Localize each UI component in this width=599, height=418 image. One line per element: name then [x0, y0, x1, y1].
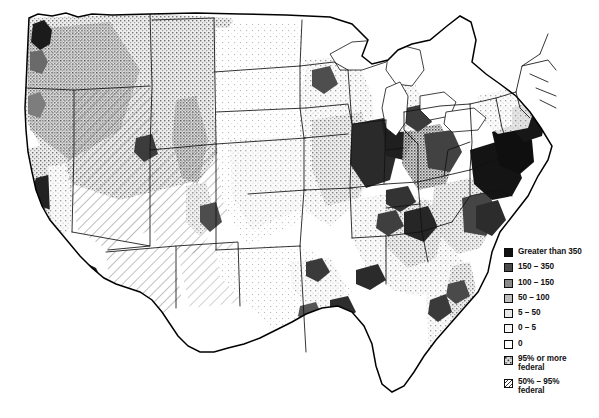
legend-swatch-95-or-more-federal — [504, 356, 513, 365]
legend-item-95-or-more-federal: 95% or more federal — [504, 355, 599, 372]
map-page: Greater than 350 150 – 350 100 – 150 50 … — [0, 0, 599, 418]
legend-item-150-350: 150 – 350 — [504, 262, 599, 272]
legend-item-0: 0 — [504, 339, 599, 349]
legend-label-50-95-federal: 50% – 95% federal — [518, 378, 559, 395]
legend-label-50-100: 50 – 100 — [518, 293, 549, 302]
legend-item-0-5: 0 – 5 — [504, 323, 599, 333]
legend-label-95-or-more-federal: 95% or more federal — [518, 355, 567, 372]
map-legend: Greater than 350 150 – 350 100 – 150 50 … — [504, 247, 599, 401]
legend-item-50-95-federal: 50% – 95% federal — [504, 378, 599, 395]
legend-item-100-150: 100 – 150 — [504, 278, 599, 288]
legend-label-0-5: 0 – 5 — [518, 323, 536, 332]
legend-swatch-100-150 — [504, 279, 513, 288]
legend-label-150-350: 150 – 350 — [518, 262, 554, 271]
legend-swatch-0-5 — [504, 324, 513, 333]
legend-label-greater-than-350: Greater than 350 — [518, 247, 582, 256]
legend-swatch-0 — [504, 340, 513, 349]
legend-label-0: 0 — [518, 339, 523, 348]
legend-swatch-greater-than-350 — [504, 248, 513, 257]
legend-label-100-150: 100 – 150 — [518, 278, 554, 287]
legend-label-5-50: 5 – 50 — [518, 308, 540, 317]
legend-swatch-150-350 — [504, 263, 513, 272]
legend-item-5-50: 5 – 50 — [504, 308, 599, 318]
legend-item-greater-than-350: Greater than 350 — [504, 247, 599, 257]
legend-swatch-5-50 — [504, 309, 513, 318]
legend-item-50-100: 50 – 100 — [504, 293, 599, 303]
legend-swatch-50-95-federal — [504, 379, 513, 388]
legend-swatch-50-100 — [504, 294, 513, 303]
